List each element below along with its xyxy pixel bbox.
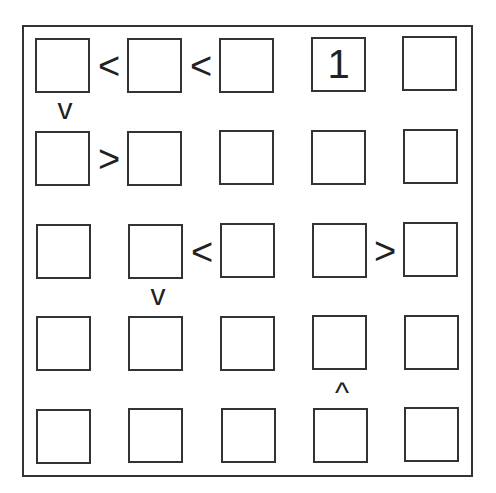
cell-r4c3[interactable]	[220, 316, 275, 371]
constraint-greater-than-r2-c1c2: >	[94, 140, 124, 178]
cell-r4c4[interactable]	[312, 315, 367, 370]
cell-r1c1[interactable]	[35, 38, 90, 93]
cell-r2c3[interactable]	[219, 130, 274, 185]
constraint-down-c2-r3r4: v	[143, 280, 173, 310]
cell-r5c3[interactable]	[221, 408, 276, 463]
cell-r2c2[interactable]	[127, 131, 182, 186]
constraint-less-than-r1-c1c2: <	[94, 47, 124, 85]
cell-r3c3[interactable]	[220, 223, 275, 278]
cell-r3c1[interactable]	[36, 224, 91, 279]
cell-r5c2[interactable]	[128, 408, 183, 463]
cell-r1c2[interactable]	[127, 38, 182, 93]
constraint-down-c1-r1r2: v	[50, 94, 80, 124]
cell-r5c1[interactable]	[36, 409, 91, 464]
constraint-greater-than-r3-c4c5: >	[370, 232, 400, 270]
cell-r2c4[interactable]	[311, 130, 366, 185]
constraint-less-than-r3-c2c3: <	[187, 233, 217, 271]
cell-r3c4[interactable]	[312, 223, 367, 278]
cell-r2c5[interactable]	[403, 129, 458, 184]
cell-r3c5[interactable]	[403, 222, 458, 277]
given-value: 1	[327, 42, 349, 87]
cell-r5c4[interactable]	[313, 408, 368, 463]
cell-r4c1[interactable]	[36, 316, 91, 371]
cell-r4c2[interactable]	[128, 316, 183, 371]
cell-r1c4[interactable]: 1	[311, 37, 366, 92]
cell-r3c2[interactable]	[128, 224, 183, 279]
cell-r5c5[interactable]	[404, 407, 459, 462]
cell-r1c5[interactable]	[402, 36, 457, 91]
cell-r1c3[interactable]	[219, 38, 274, 93]
constraint-less-than-r1-c2c3: <	[186, 47, 216, 85]
constraint-up-c4-r4r5: ^	[327, 378, 357, 408]
cell-r4c5[interactable]	[404, 315, 459, 370]
cell-r2c1[interactable]	[35, 131, 90, 186]
